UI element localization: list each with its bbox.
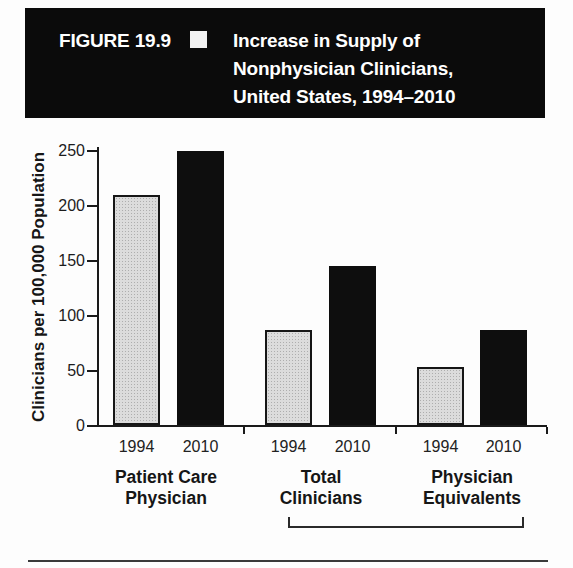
y-axis-tick-label-250: 250 [37, 142, 85, 160]
bar-chart: Clinicians per 100,000 Population 050100… [0, 0, 573, 568]
group-label-3: Physician Equivalents [387, 467, 557, 509]
group-bracket [288, 517, 524, 528]
group-label-1: Patient Care Physician [81, 467, 251, 509]
x-axis-tick-3 [546, 427, 548, 434]
bar-year-label-2010-group-1: 2010 [171, 438, 231, 456]
bottom-rule [28, 560, 548, 562]
figure-19-9: FIGURE 19.9 Increase in Supply of Nonphy… [0, 0, 573, 568]
y-axis-tick-label-200: 200 [37, 197, 85, 215]
y-axis-tick-100 [87, 315, 97, 317]
y-axis-tick-label-50: 50 [37, 362, 85, 380]
group-label-2: Total Clinicians [236, 467, 406, 509]
x-axis-tick-2 [395, 427, 397, 434]
x-axis-line [97, 425, 547, 427]
y-axis-tick-250 [87, 150, 97, 152]
y-axis-tick-50 [87, 370, 97, 372]
bar-1994-group-3 [417, 367, 464, 425]
bar-2010-group-2 [329, 266, 376, 426]
bar-year-label-1994-group-1: 1994 [107, 438, 167, 456]
y-axis-tick-label-150: 150 [37, 252, 85, 270]
y-axis-tick-label-100: 100 [37, 307, 85, 325]
bar-1994-group-2 [265, 330, 312, 425]
bar-2010-group-3 [480, 330, 527, 425]
bar-2010-group-1 [177, 151, 224, 425]
bar-year-label-1994-group-2: 1994 [259, 438, 319, 456]
bar-year-label-2010-group-3: 2010 [474, 438, 534, 456]
y-axis-tick-150 [87, 260, 97, 262]
bar-year-label-1994-group-3: 1994 [411, 438, 471, 456]
y-axis-tick-label-0: 0 [37, 417, 85, 435]
y-axis-line [97, 147, 99, 427]
y-axis-tick-200 [87, 205, 97, 207]
y-axis-title: Clinicians per 100,000 Population [29, 125, 51, 449]
bar-year-label-2010-group-2: 2010 [323, 438, 383, 456]
x-axis-tick-1 [243, 427, 245, 434]
bar-1994-group-1 [113, 195, 160, 425]
y-axis-tick-0 [87, 425, 97, 427]
